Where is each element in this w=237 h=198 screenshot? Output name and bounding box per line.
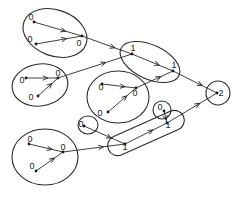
node-label: 0: [19, 75, 24, 85]
node-dot: [35, 170, 38, 173]
edge-a0-to-a2: [34, 22, 82, 36]
node-dot: [131, 53, 134, 56]
node-b1: 0: [55, 68, 60, 79]
edge-f1-to-l1d: [63, 144, 125, 152]
node-label: 1: [165, 120, 170, 130]
node-dot: [172, 70, 175, 73]
node-c1: 0: [97, 108, 109, 118]
edge-a1-to-a2: [36, 36, 82, 44]
edge-l1c-to-root: [167, 93, 217, 123]
node-dot: [107, 111, 110, 114]
node-label: 0: [60, 142, 65, 152]
node-f2: 0: [29, 161, 37, 172]
node-label: 0: [29, 161, 34, 171]
edge-b1-to-l1a: [58, 54, 132, 78]
node-label: 0: [76, 38, 81, 48]
node-a0: 0: [28, 12, 35, 23]
node-l1b: 1: [171, 60, 176, 72]
node-label: 1: [171, 60, 176, 70]
node-label: 0: [98, 82, 103, 92]
edge-f2-to-f1: [36, 152, 63, 171]
node-label: 0: [55, 68, 60, 78]
node-root: 2: [216, 88, 224, 98]
node-l1a: 1: [130, 43, 135, 55]
node-dot: [35, 43, 38, 46]
node-label: 0: [28, 92, 33, 102]
node-label: 0: [157, 102, 162, 112]
node-label: 0: [27, 134, 32, 144]
edge-l1b-to-root: [173, 71, 217, 93]
edge-l1a-to-l1b: [132, 54, 173, 71]
node-label: 0: [78, 119, 83, 129]
node-label: 0: [28, 12, 33, 22]
ellipse-center: [87, 71, 149, 123]
merge-tree-diagram: 0000000001100110002: [0, 0, 237, 198]
node-c2: 0: [132, 87, 137, 98]
node-dot: [81, 35, 84, 38]
node-dot: [25, 77, 28, 80]
node-dot: [37, 95, 40, 98]
node-label: 1: [122, 142, 127, 152]
node-label: 0: [97, 108, 102, 118]
edge-b2-to-b1: [38, 78, 58, 96]
node-a1: 0: [27, 34, 37, 45]
node-label: 2: [218, 88, 223, 98]
ellipse-mid-left: [9, 60, 70, 109]
edge-l1d-to-l1c: [125, 123, 167, 144]
node-b0: 0: [19, 75, 27, 85]
node-c0: 0: [98, 82, 103, 92]
node-f0: 0: [27, 134, 32, 145]
node-d0: 0: [78, 119, 85, 129]
node-f1: 0: [60, 142, 65, 153]
edge-c0-to-c2: [102, 84, 136, 88]
node-label: 0: [27, 34, 32, 44]
node-label: 0: [132, 88, 137, 98]
ellipse-bottom-left: [12, 129, 78, 185]
edge-d0-to-l1d: [84, 126, 125, 144]
node-e0: 0: [157, 102, 165, 112]
node-label: 1: [130, 43, 135, 53]
node-l1c: 1: [165, 120, 170, 130]
edge-f0-to-f1: [29, 144, 63, 152]
node-l1d: 1: [122, 142, 127, 152]
ellipse-top-left: [16, 0, 94, 66]
node-dot: [163, 110, 166, 113]
node-b2: 0: [28, 92, 39, 102]
